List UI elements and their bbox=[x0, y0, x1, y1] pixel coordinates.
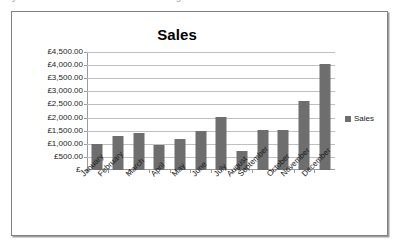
chart-container[interactable]: Sales £4,500.00£4,000.00£3,500.00£3,000.… bbox=[11, 11, 388, 236]
y-axis-tick-label: £3,000.00 bbox=[11, 87, 83, 95]
cropped-text-right: g bbox=[176, 0, 181, 2]
cropped-text-strip: y g bbox=[0, 0, 397, 9]
y-axis-tick-label: £4,000.00 bbox=[11, 61, 83, 69]
y-axis-labels: £4,500.00£4,000.00£3,500.00£3,000.00£2,5… bbox=[12, 52, 83, 170]
chart-title: Sales bbox=[12, 26, 342, 43]
y-axis-tick-label: £500.00 bbox=[11, 153, 83, 161]
y-axis-tick-label: £2,500.00 bbox=[11, 100, 83, 108]
y-axis-tick-label: £3,500.00 bbox=[11, 74, 83, 82]
x-axis-labels: JanuaryFebruaryMarchAprilMayJuneJulyAugu… bbox=[87, 172, 335, 230]
y-axis-tick-label: £1,000.00 bbox=[11, 140, 83, 148]
legend-label-sales: Sales bbox=[354, 115, 374, 123]
bar-slot bbox=[211, 52, 232, 170]
legend-swatch-sales bbox=[345, 116, 351, 122]
y-axis-tick-label: £2,000.00 bbox=[11, 114, 83, 122]
chart-legend[interactable]: Sales bbox=[345, 115, 374, 123]
bar-slot bbox=[149, 52, 170, 170]
bar-slot bbox=[190, 52, 211, 170]
cropped-text-left: y bbox=[12, 0, 17, 2]
bar-slot bbox=[128, 52, 149, 170]
y-axis-tick-label: £4,500.00 bbox=[11, 48, 83, 56]
bar-slot bbox=[170, 52, 191, 170]
y-axis-tick-label: £1,500.00 bbox=[11, 127, 83, 135]
y-axis-tick-label: £- bbox=[11, 166, 83, 174]
bar-slot bbox=[232, 52, 253, 170]
